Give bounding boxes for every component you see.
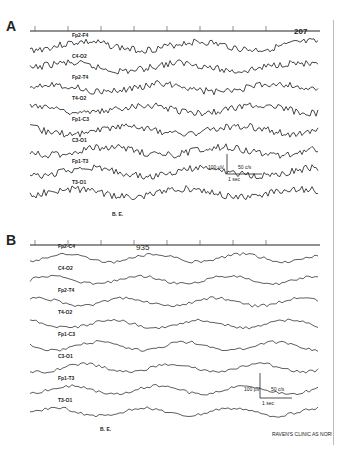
marker-label-a: 207 bbox=[294, 27, 308, 36]
channel-label: T4-O2 bbox=[58, 309, 72, 315]
eeg-traces-a: 207 Fp2-F4C4-O2Fp2-T4T4-O2Fp1-C3C3-O1Fp1… bbox=[0, 14, 332, 219]
eeg-trace bbox=[30, 363, 318, 373]
eeg-trace bbox=[30, 275, 318, 285]
channel-label: Fp1-C3 bbox=[72, 116, 89, 122]
channel-label: T3-O1 bbox=[72, 179, 86, 185]
calibration-time-a: 1 sec bbox=[228, 176, 240, 182]
eeg-trace bbox=[30, 81, 318, 95]
channel-label: C4-O2 bbox=[58, 265, 73, 271]
eeg-trace bbox=[30, 297, 318, 307]
channel-label: Fp1-C3 bbox=[58, 331, 75, 337]
eeg-trace bbox=[30, 144, 318, 159]
page-edge-rule bbox=[333, 20, 334, 445]
channel-label: Fp2-T4 bbox=[72, 74, 89, 80]
channel-label: Fp1-T3 bbox=[58, 375, 75, 381]
footer-label-b: B. E. bbox=[100, 426, 112, 432]
eeg-trace bbox=[30, 123, 318, 137]
eeg-trace bbox=[30, 253, 318, 264]
channel-label: Fp1-T3 bbox=[72, 158, 89, 164]
eeg-trace bbox=[30, 186, 318, 200]
eeg-panel-a: A 207 Fp2-F4C4-O2Fp2-T4T4-O2Fp1-C3C3-O1F… bbox=[0, 14, 332, 219]
channel-label: Fp2-T4 bbox=[58, 287, 75, 293]
calibration-time-b: 1 sec bbox=[262, 400, 274, 406]
eeg-trace bbox=[30, 319, 318, 329]
eeg-trace bbox=[30, 60, 318, 74]
calibration-amplitude-b: 100 µV bbox=[244, 386, 261, 392]
marker-label-b: 935 bbox=[136, 243, 150, 252]
calibration-filter-a: 50 c/s bbox=[238, 164, 252, 170]
channel-label: C3-O1 bbox=[72, 137, 87, 143]
eeg-trace bbox=[30, 39, 318, 54]
eeg-trace bbox=[30, 103, 318, 116]
channel-label: Fp2-C4 bbox=[58, 243, 75, 249]
eeg-traces-b: 935 Fp2-C4C4-O2Fp2-T4T4-O2Fp1-C3C3-O1Fp1… bbox=[0, 228, 332, 438]
eeg-trace bbox=[30, 407, 318, 417]
credit-text: RAVEN'S CLINIC AS NORM bbox=[272, 431, 332, 437]
channel-label: T4-O2 bbox=[72, 95, 86, 101]
calibration-a: 100 µV 50 c/s 1 sec bbox=[208, 154, 262, 182]
footer-label-a: B. E. bbox=[112, 211, 124, 217]
channel-label: T3-O1 bbox=[58, 397, 72, 403]
channel-label: Fp2-F4 bbox=[72, 32, 89, 38]
channel-label: C3-O1 bbox=[58, 353, 73, 359]
eeg-trace bbox=[30, 341, 318, 352]
channel-label: C4-O2 bbox=[72, 53, 87, 59]
calibration-amplitude-a: 100 µV bbox=[208, 164, 225, 170]
eeg-panel-b: B 935 Fp2-C4C4-O2Fp2-T4T4-O2Fp1-C3C3-O1F… bbox=[0, 228, 332, 438]
calibration-filter-b: 50 c/s bbox=[271, 386, 285, 392]
calibration-b: 100 µV 50 c/s 1 sec bbox=[244, 373, 292, 406]
eeg-trace bbox=[30, 165, 318, 180]
